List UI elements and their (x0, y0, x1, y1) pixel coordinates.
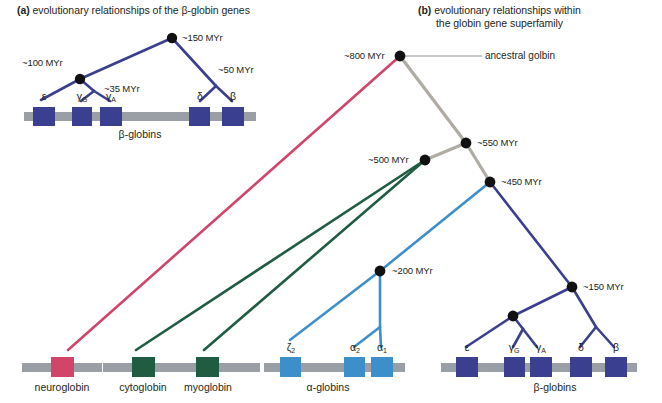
node-b-100 (508, 311, 519, 322)
gene-label-a-gammaG: γG (72, 90, 92, 102)
gene-box-a-gammaG (72, 107, 92, 126)
node-a-150 (167, 33, 177, 43)
branch-b-550-to-450 (466, 143, 490, 182)
node-b-200 (375, 266, 386, 277)
gene-label-alpha2: α2 (345, 341, 365, 353)
gene-label-a-delta: δ (190, 90, 210, 102)
family-label-myoglobin: myoglobin (168, 381, 248, 393)
cluster-label-b-beta-globins: β-globins (515, 381, 595, 393)
branch-a-root-left (80, 38, 172, 79)
gene-box-a-beta (222, 107, 244, 126)
panel-b-alpha-chromosome (264, 357, 405, 377)
node-b-800 (395, 51, 406, 62)
branch-b-150-to-100 (513, 287, 572, 316)
gene-box-b-epsilon (456, 357, 478, 377)
gene-label-b-gammaG: γG (504, 341, 524, 353)
gene-label-a-epsilon: ε (34, 90, 54, 102)
family-label-neuroglobin: neuroglobin (22, 381, 102, 393)
gene-box-cytoglobin (132, 357, 155, 377)
node-b-450 (485, 177, 496, 188)
gene-box-myoglobin (196, 357, 219, 377)
branch-b-800-to-550 (400, 56, 466, 143)
branch-a-root-right (172, 38, 216, 86)
node-b-150 (567, 282, 578, 293)
panel-b-nodes (375, 51, 578, 322)
gene-label-a-beta: β (223, 90, 243, 102)
gene-box-b-gammaG (504, 357, 525, 377)
branch-b-450-to-200 (380, 182, 490, 271)
panel-b-green-branches (136, 160, 425, 350)
chromosome-bar-a (24, 112, 256, 121)
panel-b-gray-branches (400, 56, 490, 182)
node-label-b-550: ~550 MYr (477, 137, 518, 148)
gene-box-a-gammaA (100, 107, 122, 126)
gene-label-zeta2: ζ2 (281, 341, 301, 353)
node-label-a-100: ~100 MYr (22, 57, 63, 68)
chromosome-bar-myoglobin (180, 363, 260, 372)
ancestral-globin-label: ancestral golbin (485, 50, 555, 61)
panel-a-chromosome (24, 107, 256, 126)
figure-globin-evolution: (a) evolutionary relationships of the β-… (0, 0, 662, 403)
gene-box-b-beta (605, 357, 627, 377)
panel-b-beta-chromosome (441, 357, 637, 377)
gene-box-neuroglobin (51, 357, 74, 377)
gene-box-a-epsilon (33, 107, 55, 126)
panel-b-myoglobin-locus (180, 357, 260, 377)
node-label-a-150: ~150 MYr (182, 32, 223, 43)
gene-box-a-delta (189, 107, 210, 126)
node-a-100 (75, 74, 85, 84)
node-b-550 (461, 138, 472, 149)
panel-b-cytoglobin-locus (103, 357, 183, 377)
gene-box-alpha1 (371, 357, 393, 377)
gene-label-b-epsilon: ε (457, 341, 477, 353)
gene-box-b-delta (570, 357, 592, 377)
diagram-canvas (0, 0, 662, 403)
gene-box-b-gammaA (530, 357, 552, 377)
panel-b-alpha-branches (290, 182, 490, 347)
gene-label-alpha1: α1 (372, 341, 392, 353)
cluster-label-alpha-globins: α-globins (288, 381, 368, 393)
node-label-b-200: ~200 MYr (392, 265, 433, 276)
gene-label-b-delta: δ (571, 341, 591, 353)
node-label-b-500: ~500 MYr (368, 154, 409, 165)
gene-box-alpha2 (344, 357, 365, 377)
node-label-b-150: ~150 MYr (583, 281, 624, 292)
node-label-a-50: ~50 MYr (218, 64, 253, 75)
gene-label-b-beta: β (606, 341, 626, 353)
branch-b-150-to-50 (572, 287, 596, 327)
gene-label-a-gammaA: γA (101, 90, 121, 102)
gene-box-zeta2 (280, 357, 301, 377)
panel-b-beta-branches (466, 182, 614, 347)
branch-b-cytoglobin (136, 160, 425, 350)
node-label-b-450: ~450 MYr (501, 176, 542, 187)
cluster-label-a-beta-globins: β-globins (100, 128, 180, 140)
branch-b-550-to-500 (425, 143, 466, 160)
panel-b-neuroglobin-locus (22, 357, 102, 377)
node-b-500 (420, 155, 431, 166)
node-label-b-800: ~800 MYr (344, 50, 385, 61)
branch-b-200-to-zeta (290, 271, 380, 340)
branch-b-450-to-150 (490, 182, 572, 287)
gene-label-b-gammaA: γA (531, 341, 551, 353)
